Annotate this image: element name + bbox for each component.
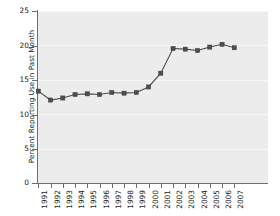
data-series	[0, 0, 280, 216]
series-markers	[36, 42, 236, 102]
data-point	[85, 92, 89, 96]
data-point	[134, 90, 138, 94]
data-point	[220, 42, 224, 46]
data-point	[208, 45, 212, 49]
data-point	[122, 91, 126, 95]
data-point	[171, 46, 175, 50]
data-point	[97, 92, 101, 96]
data-point	[61, 96, 65, 100]
data-point	[232, 46, 236, 50]
data-point	[48, 98, 52, 102]
data-point	[183, 47, 187, 51]
data-point	[36, 89, 40, 93]
data-point	[146, 85, 150, 89]
data-point	[73, 92, 77, 96]
data-point	[110, 90, 114, 94]
data-point	[195, 48, 199, 52]
data-point	[159, 71, 163, 75]
line-chart: Percent Reporting Use in Past Month 0510…	[0, 0, 280, 216]
